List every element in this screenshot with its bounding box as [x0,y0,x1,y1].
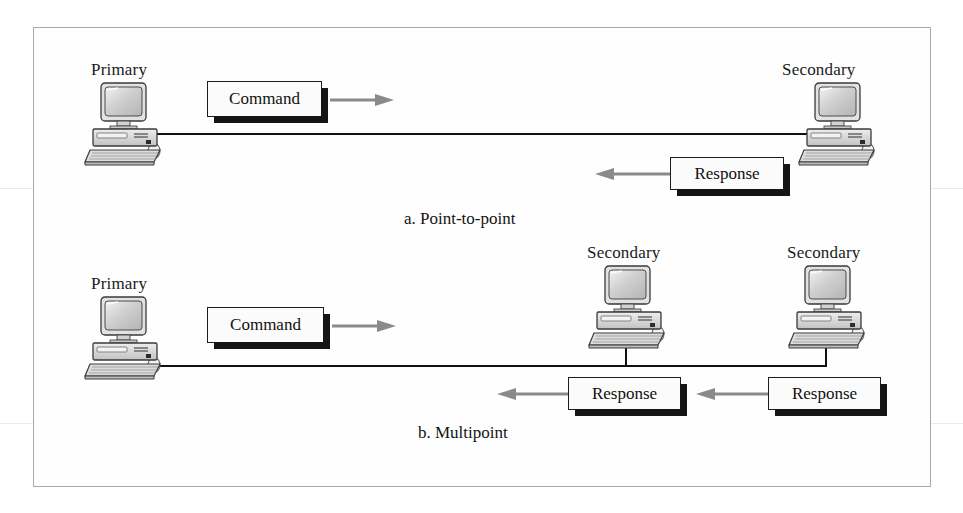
mp-secondary-1-label: Secondary [587,243,661,263]
mp-response-arrow-left-icon-1 [495,386,571,406]
mp-secondary-2-computer-icon [788,265,884,353]
p2p-command-box: Command [207,81,322,117]
panel-b-caption: b. Multipoint [418,423,508,443]
mp-bus-line [150,365,827,367]
p2p-response-box: Response [670,157,784,190]
mp-response-arrow-left-icon-2 [694,386,770,406]
mp-secondary-1-computer-icon [588,265,684,353]
mp-primary-label: Primary [91,274,147,294]
mp-primary-computer-icon [84,296,180,384]
mp-command-box: Command [207,307,324,343]
box-shadow-bottom [214,116,328,123]
p2p-response-arrow-left-icon [593,166,671,186]
p2p-response-label: Response [694,164,759,184]
mp-response-box-1: Response [568,377,681,410]
mp-secondary-2-label: Secondary [787,243,861,263]
mp-response-2-label: Response [792,384,857,404]
p2p-link-line [150,133,810,135]
p2p-command-label: Command [229,89,300,109]
mp-command-arrow-right-icon [332,318,398,338]
mp-response-1-label: Response [592,384,657,404]
panel-a-caption: a. Point-to-point [404,209,515,229]
box-shadow-bottom [214,342,330,349]
figure-root: Primary [0,0,963,513]
box-shadow-bottom [575,409,687,416]
p2p-command-arrow-right-icon [330,92,396,112]
p2p-secondary-computer-icon [798,82,894,170]
p2p-primary-label: Primary [91,60,147,80]
p2p-secondary-label: Secondary [782,60,856,80]
p2p-primary-computer-icon [84,82,180,170]
mp-response-box-2: Response [768,377,881,410]
box-shadow-bottom [775,409,887,416]
mp-command-label: Command [230,315,301,335]
box-shadow-bottom [677,189,790,196]
